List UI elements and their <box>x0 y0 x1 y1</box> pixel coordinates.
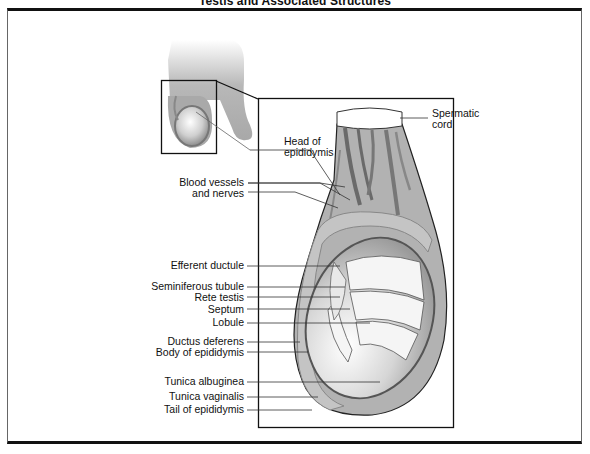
label-blood-vessels: Blood vessels and nerves <box>179 177 244 199</box>
label-spermatic-cord: Spermatic cord <box>432 108 479 130</box>
label-rete-testis: Rete testis <box>194 292 244 303</box>
label-blood-vessels-line2: and nerves <box>179 188 244 199</box>
label-head-epididymis: Head of epididymis <box>284 136 334 158</box>
label-efferent-ductule: Efferent ductule <box>171 260 244 271</box>
testis-illustration <box>0 0 590 454</box>
label-tunica-albuginea: Tunica albuginea <box>164 376 244 387</box>
label-septum: Septum <box>208 304 244 315</box>
label-tunica-vaginalis: Tunica vaginalis <box>169 391 244 402</box>
label-spermatic-cord-line2: cord <box>432 119 479 130</box>
label-body-epididymis: Body of epididymis <box>156 347 244 358</box>
label-tail-epididymis: Tail of epididymis <box>164 404 244 415</box>
label-head-epididymis-line2: epididymis <box>284 147 334 158</box>
body-silhouette <box>162 40 252 152</box>
label-lobule: Lobule <box>212 317 244 328</box>
